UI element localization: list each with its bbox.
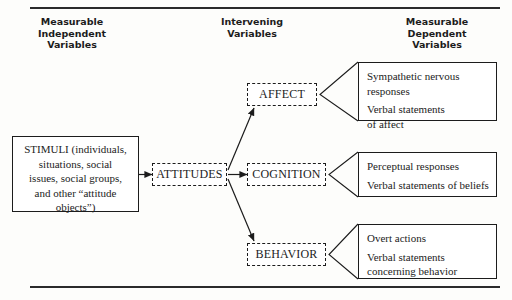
node-attitudes-label: ATTITUDES <box>156 167 222 182</box>
node-cognition-label: COGNITION <box>252 167 320 182</box>
node-attitudes[interactable]: ATTITUDES <box>152 163 227 186</box>
node-cognition[interactable]: COGNITION <box>247 163 326 186</box>
column-heading-independent: Measurable Independent Variables <box>17 16 127 51</box>
node-behavior[interactable]: BEHAVIOR <box>247 243 326 266</box>
outcome-box-behavior: Overt actions Verbal statements concerni… <box>358 224 497 279</box>
stimuli-text: STIMULI (individuals, situations, social… <box>17 142 134 215</box>
connector-affect-to-outcome <box>320 62 358 121</box>
connector-cognition-to-outcome <box>329 152 358 197</box>
node-behavior-label: BEHAVIOR <box>255 247 317 262</box>
column-heading-intervening: Intervening Variables <box>197 16 307 39</box>
outcome-cognition-line1: Perceptual responses <box>367 159 496 174</box>
node-affect[interactable]: AFFECT <box>247 83 317 106</box>
outcome-behavior-line2: Verbal statements <box>367 250 496 265</box>
arrow-attitudes-to-behavior <box>228 179 254 241</box>
outcome-affect-line2: responses <box>367 84 496 99</box>
outcome-box-cognition: Perceptual responses Verbal statements o… <box>358 152 497 197</box>
diagram-canvas: Measurable Independent Variables Interve… <box>0 0 512 300</box>
column-heading-dependent: Measurable Dependent Variables <box>382 16 492 51</box>
outcome-behavior-line3: concerning behavior <box>367 264 496 279</box>
outcome-affect-line1: Sympathetic nervous <box>367 69 496 84</box>
top-rule <box>30 7 500 9</box>
connector-behavior-to-outcome <box>329 224 358 279</box>
outcome-cognition-line2: Verbal statements of beliefs <box>367 178 496 193</box>
outcome-box-affect: Sympathetic nervous responses Verbal sta… <box>358 62 497 121</box>
node-affect-label: AFFECT <box>259 87 305 102</box>
outcome-affect-line4: of affect <box>367 117 496 132</box>
outcome-behavior-line1: Overt actions <box>367 231 496 246</box>
bottom-rule <box>30 286 500 288</box>
outcome-affect-line3: Verbal statements <box>367 102 496 117</box>
stimuli-box: STIMULI (individuals, situations, social… <box>12 136 139 212</box>
arrow-attitudes-to-affect <box>228 108 254 170</box>
